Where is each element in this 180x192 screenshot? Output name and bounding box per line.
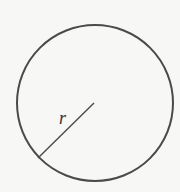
circle-outline <box>17 25 173 181</box>
radius-label: r <box>59 109 66 127</box>
circle-diagram <box>0 0 180 192</box>
